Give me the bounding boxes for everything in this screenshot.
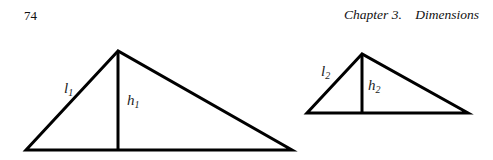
triangle-1-side-label: l1 (64, 80, 73, 98)
triangle-1-outline (26, 51, 292, 150)
triangle-2 (307, 54, 468, 113)
triangle-1 (26, 51, 292, 150)
triangle-2-side-label: l2 (321, 63, 330, 81)
similar-triangles-figure: l1 h1 l2 h2 (0, 0, 493, 160)
triangle-2-outline (307, 54, 468, 113)
triangle-2-height-label: h2 (368, 77, 381, 95)
triangle-1-height-label: h1 (127, 92, 140, 110)
